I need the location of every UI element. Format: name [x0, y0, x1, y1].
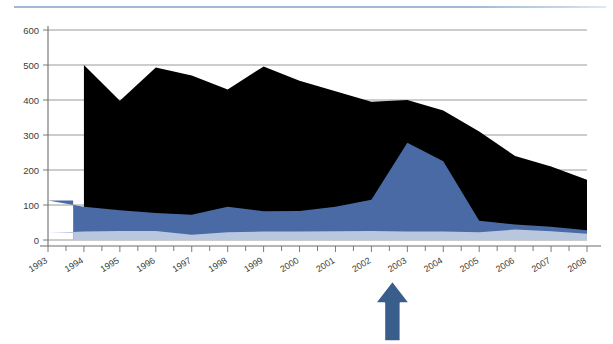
- x-tick-label-1995: 1995: [99, 255, 121, 274]
- x-tick-label-2003: 2003: [386, 255, 408, 274]
- x-tick-label-2004: 2004: [422, 255, 444, 274]
- stacked-area-chart: 0100200300400500600 19931994199519961997…: [0, 0, 613, 344]
- area-series-group: [48, 65, 587, 240]
- y-tick-label-500: 500: [23, 60, 39, 71]
- x-tick-label-2000: 2000: [278, 255, 300, 274]
- y-tick-label-200: 200: [23, 165, 39, 176]
- x-tick-label-1993: 1993: [27, 255, 49, 274]
- y-tick-label-600: 600: [23, 25, 39, 36]
- up-arrow-icon: [375, 281, 409, 341]
- chart-figure: 0100200300400500600 19931994199519961997…: [0, 0, 613, 344]
- x-tick-label-2007: 2007: [530, 255, 552, 274]
- x-tick-label-2008: 2008: [566, 255, 588, 274]
- y-tick-label-100: 100: [23, 200, 39, 211]
- y-axis-tick-labels: 0100200300400500600: [23, 25, 39, 246]
- y-tick-label-300: 300: [23, 130, 39, 141]
- x-axis-tick-labels: 1993199419951996199719981999200020012002…: [27, 255, 588, 274]
- x-tick-label-2002: 2002: [350, 255, 372, 274]
- x-tick-label-1994: 1994: [63, 255, 85, 274]
- x-tick-label-1997: 1997: [171, 255, 193, 274]
- y-tick-label-400: 400: [23, 95, 39, 106]
- x-tick-label-2001: 2001: [314, 255, 336, 274]
- y-tick-label-0: 0: [34, 235, 39, 246]
- x-tick-label-2005: 2005: [458, 255, 480, 274]
- x-tick-label-1996: 1996: [135, 255, 157, 274]
- x-tick-label-1999: 1999: [242, 255, 264, 274]
- x-tick-label-2006: 2006: [494, 255, 516, 274]
- up-arrow-annotation: [375, 281, 409, 341]
- x-tick-label-1998: 1998: [206, 255, 228, 274]
